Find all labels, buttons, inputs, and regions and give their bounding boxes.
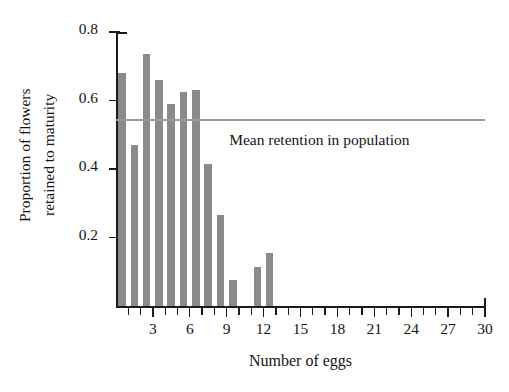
bar <box>167 104 175 306</box>
x-tick-label: 18 <box>330 320 346 338</box>
x-tick <box>140 306 141 315</box>
y-tick: 0.8 <box>109 31 120 33</box>
x-tick <box>128 306 129 315</box>
x-tick-label: 21 <box>367 320 383 338</box>
y-axis-label: Proportion of flowers retained to maturi… <box>8 30 64 280</box>
bar <box>143 54 151 306</box>
x-tick <box>165 306 166 315</box>
x-tick <box>324 306 325 315</box>
x-tick <box>349 306 350 315</box>
x-tick <box>337 306 338 317</box>
x-tick <box>386 306 387 315</box>
plot-area: 0.20.40.60.8 36912151821242730 Mean rete… <box>116 32 485 306</box>
bar <box>131 145 139 306</box>
x-tick <box>177 306 178 315</box>
x-tick-label: 6 <box>186 320 194 338</box>
bar <box>217 215 225 306</box>
x-tick <box>275 306 276 315</box>
bar <box>204 164 212 306</box>
bar <box>118 73 126 306</box>
x-tick <box>472 306 473 315</box>
x-tick-label: 30 <box>477 320 493 338</box>
mean-retention-label: Mean retention in population <box>229 131 409 149</box>
x-axis-label: Number of eggs <box>116 352 485 370</box>
x-tick-label: 27 <box>440 320 456 338</box>
x-tick <box>263 306 264 317</box>
x-tick <box>300 306 301 317</box>
x-tick-label: 15 <box>293 320 309 338</box>
x-tick <box>484 306 485 317</box>
x-tick <box>411 306 412 317</box>
x-tick <box>447 306 448 317</box>
y-tick-label: 0.8 <box>79 20 98 38</box>
bar-chart-figure: Proportion of flowers retained to maturi… <box>0 0 509 392</box>
x-tick <box>398 306 399 315</box>
x-tick-label: 24 <box>403 320 419 338</box>
x-tick <box>435 306 436 315</box>
x-tick <box>423 306 424 315</box>
x-tick <box>374 306 375 317</box>
x-tick <box>226 306 227 317</box>
x-tick <box>288 306 289 315</box>
bar <box>229 280 237 306</box>
y-tick-label: 0.2 <box>79 226 98 244</box>
x-tick <box>189 306 190 317</box>
bar <box>266 253 274 306</box>
x-tick <box>312 306 313 315</box>
x-tick-label: 9 <box>223 320 231 338</box>
x-tick <box>361 306 362 315</box>
x-tick <box>238 306 239 315</box>
x-tick <box>251 306 252 315</box>
x-tick <box>152 306 153 317</box>
bar <box>254 267 262 306</box>
x-tick <box>201 306 202 315</box>
x-tick-label: 3 <box>149 320 157 338</box>
y-axis-label-line-1: Proportion of flowers <box>12 30 38 280</box>
x-tick-label: 12 <box>256 320 272 338</box>
y-tick-label: 0.6 <box>79 89 98 107</box>
x-tick <box>214 306 215 315</box>
bar <box>180 92 188 306</box>
y-axis-label-line-2: retained to maturity <box>36 30 62 280</box>
mean-retention-line <box>116 119 485 120</box>
bar <box>155 80 163 306</box>
y-tick-label: 0.4 <box>79 157 98 175</box>
bar <box>192 90 200 306</box>
x-tick <box>460 306 461 315</box>
